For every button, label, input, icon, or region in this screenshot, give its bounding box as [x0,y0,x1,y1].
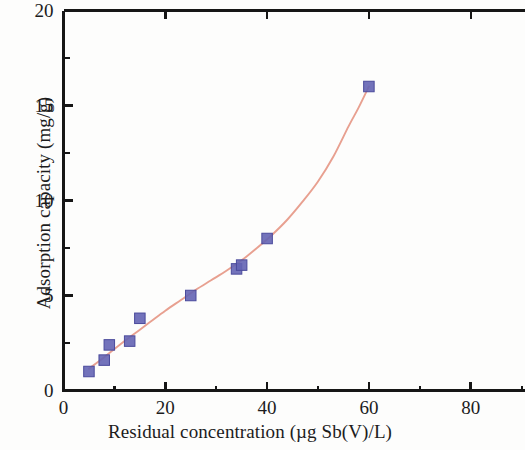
data-point-marker [364,81,375,92]
data-markers [84,81,374,377]
x-tick-label: 0 [59,397,69,419]
data-point-marker [84,366,95,377]
x-axis-title: Residual concentration (µg Sb(V)/L) [0,421,500,443]
y-tick-label: 0 [18,380,54,402]
data-point-marker [262,233,273,244]
data-point-marker [186,290,197,301]
x-tick-label: 40 [258,397,277,419]
plot-frame [62,11,525,391]
data-point-marker [99,355,110,366]
data-point-marker [124,336,135,347]
data-point-marker [236,260,247,271]
y-tick-label: 20 [18,0,54,22]
data-point-marker [135,313,146,324]
fit-curve [89,87,369,369]
chart-canvas [0,0,525,450]
fitted-curve-path [89,87,369,369]
x-tick-label: 60 [359,397,378,419]
tick-marks [64,11,522,391]
y-tick-label: 10 [18,190,54,212]
x-tick-label: 20 [156,397,175,419]
y-tick-label: 15 [18,95,54,117]
y-tick-label: 5 [18,285,54,307]
chart-figure: Residual concentration (µg Sb(V)/L) Adso… [0,0,525,450]
data-point-marker [104,340,115,351]
x-tick-label: 80 [461,397,480,419]
